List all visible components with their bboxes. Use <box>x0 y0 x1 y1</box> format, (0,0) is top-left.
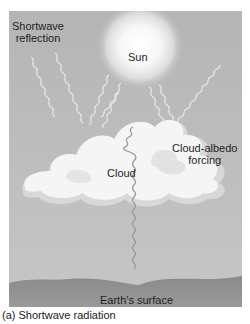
sun-label: Sun <box>128 51 148 63</box>
shortwave-reflection-label: Shortwave reflection <box>12 20 64 44</box>
diagram-panel: Shortwave reflection Sun Cloud-albedo fo… <box>9 11 242 307</box>
label-line: Cloud-albedo <box>172 142 237 154</box>
cloud-label: Cloud <box>107 167 136 179</box>
cloud-albedo-label: Cloud-albedo forcing <box>172 142 237 166</box>
label-line: forcing <box>172 154 237 166</box>
label-line: reflection <box>12 32 64 44</box>
figure-caption: (a) Shortwave radiation <box>2 309 116 321</box>
label-line: Shortwave <box>12 20 64 32</box>
earth-surface-label: Earth's surface <box>100 294 173 306</box>
